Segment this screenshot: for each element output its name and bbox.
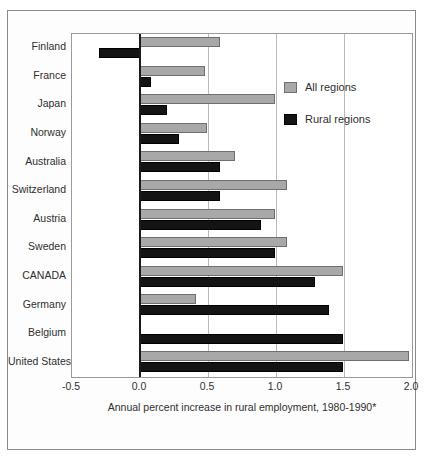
category-label-united-states: United States xyxy=(8,356,66,367)
plot-area: All regions Rural regions xyxy=(71,33,413,378)
bar-rural-regions xyxy=(140,105,167,115)
x-tick-label: 2.0 xyxy=(404,380,419,392)
bar-row xyxy=(72,148,412,177)
bar-row xyxy=(72,320,412,349)
legend-swatch-all-regions xyxy=(284,82,297,93)
category-label-canada: CANADA xyxy=(8,270,66,281)
legend-label-all-regions: All regions xyxy=(305,81,356,93)
category-label-austria: Austria xyxy=(8,213,66,224)
bar-rural-regions xyxy=(140,191,220,201)
zero-baseline xyxy=(139,34,141,377)
x-tick-label: 0.5 xyxy=(200,380,215,392)
bar-rural-regions xyxy=(140,334,343,344)
x-tick-label: 1.5 xyxy=(336,380,351,392)
category-label-japan: Japan xyxy=(8,98,66,109)
category-label-finland: Finland xyxy=(8,41,66,52)
bar-all-regions xyxy=(140,266,343,276)
category-label-sweden: Sweden xyxy=(8,241,66,252)
legend-swatch-rural-regions xyxy=(284,114,297,125)
category-label-belgium: Belgium xyxy=(8,327,66,338)
figure-frame: FinlandFranceJapanNorwayAustraliaSwitzer… xyxy=(7,10,416,450)
category-axis-labels: FinlandFranceJapanNorwayAustraliaSwitzer… xyxy=(8,33,66,378)
category-label-germany: Germany xyxy=(8,299,66,310)
bar-row xyxy=(72,348,412,377)
x-tick-label: 0.0 xyxy=(132,380,147,392)
bar-all-regions xyxy=(140,180,287,190)
bar-all-regions xyxy=(140,151,235,161)
bar-rural-regions xyxy=(140,77,151,87)
bar-rural-regions xyxy=(140,220,261,230)
bar-row xyxy=(72,291,412,320)
category-label-australia: Australia xyxy=(8,156,66,167)
bar-all-regions xyxy=(140,94,275,104)
category-label-norway: Norway xyxy=(8,127,66,138)
bar-rural-regions xyxy=(140,362,343,372)
bar-row xyxy=(72,234,412,263)
category-label-france: France xyxy=(8,70,66,81)
legend-item-all-regions: All regions xyxy=(284,81,404,93)
bar-row xyxy=(72,177,412,206)
x-axis-ticks: -0.50.00.51.01.52.0 xyxy=(71,380,413,396)
bar-rural-regions xyxy=(140,248,275,258)
category-label-switzerland: Switzerland xyxy=(8,184,66,195)
bar-all-regions xyxy=(140,351,409,361)
x-tick-label: 1.0 xyxy=(268,380,283,392)
legend-item-rural-regions: Rural regions xyxy=(284,113,404,125)
bar-all-regions xyxy=(140,294,196,304)
bar-all-regions xyxy=(140,66,205,76)
x-tick-label: -0.5 xyxy=(62,380,80,392)
bar-rural-regions xyxy=(99,48,140,58)
bar-rural-regions xyxy=(140,162,220,172)
bar-all-regions xyxy=(140,237,287,247)
bar-all-regions xyxy=(140,209,275,219)
bar-all-regions xyxy=(140,37,220,47)
bar-rural-regions xyxy=(140,134,179,144)
bar-all-regions xyxy=(140,123,207,133)
chart-legend: All regions Rural regions xyxy=(284,81,404,145)
legend-label-rural-regions: Rural regions xyxy=(305,113,370,125)
bar-row xyxy=(72,206,412,235)
bar-row xyxy=(72,34,412,63)
bar-rural-regions xyxy=(140,305,329,315)
bar-row xyxy=(72,263,412,292)
bar-rural-regions xyxy=(140,277,315,287)
x-axis-title: Annual percent increase in rural employm… xyxy=(71,401,413,413)
